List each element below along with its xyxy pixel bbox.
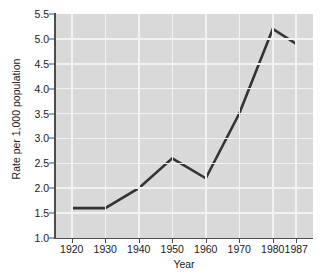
gridline-vertical [205, 14, 207, 238]
x-axis-tick-mark [72, 238, 73, 243]
y-axis-tick-mark [49, 63, 54, 64]
x-axis-tick-label: 1930 [94, 243, 117, 255]
y-axis-tick-label: 5.5 [23, 8, 49, 20]
x-axis-tick-label: 1987 [285, 243, 308, 255]
y-axis-tick-label: 2.5 [23, 157, 49, 169]
x-axis-tick-label: 1980 [261, 243, 284, 255]
y-axis-tick-label: 3.5 [23, 108, 49, 120]
y-axis-tick-label: 2.0 [23, 182, 49, 194]
gridline-horizontal [55, 138, 313, 140]
data-series-line [55, 14, 313, 238]
x-axis-tick-mark [172, 238, 173, 243]
y-axis-tick-mark [49, 88, 54, 89]
y-axis-tick-label: 4.0 [23, 83, 49, 95]
y-axis-tick-labels: 1.01.52.02.53.03.54.04.55.05.5 [22, 0, 49, 279]
line-chart-figure: Rate per 1,000 population 1.01.52.02.53.… [0, 0, 332, 279]
y-axis-tick-mark [49, 138, 54, 139]
gridline-vertical [138, 14, 140, 238]
gridline-vertical [71, 14, 73, 238]
y-axis-tick-label: 5.0 [23, 33, 49, 45]
gridline-horizontal [55, 63, 313, 65]
x-axis-tick-mark [239, 238, 240, 243]
y-axis-tick-mark [49, 14, 54, 15]
y-axis-tick-label: 4.5 [23, 58, 49, 70]
gridline-horizontal [55, 163, 313, 165]
y-axis-tick-mark [49, 38, 54, 39]
gridline-horizontal [55, 88, 313, 90]
gridline-horizontal [55, 187, 313, 189]
y-axis-line [54, 13, 56, 239]
y-axis-tick-label: 1.0 [23, 232, 49, 244]
x-axis-label: Year [55, 258, 313, 270]
gridline-horizontal [55, 212, 313, 214]
x-axis-line [54, 238, 313, 240]
gridline-vertical [172, 14, 174, 238]
x-axis-tick-label: 1970 [228, 243, 251, 255]
y-axis-tick-mark [49, 213, 54, 214]
y-axis-tick-mark [49, 188, 54, 189]
gridline-vertical [105, 14, 107, 238]
plot-area [55, 14, 313, 238]
y-axis-tick-mark [49, 113, 54, 114]
x-axis-tick-label: 1920 [60, 243, 83, 255]
gridline-horizontal [55, 38, 313, 40]
y-axis-tick-mark [49, 238, 54, 239]
x-axis-tick-mark [273, 238, 274, 243]
gridline-horizontal [55, 113, 313, 115]
gridline-vertical [239, 14, 241, 238]
x-axis-tick-label: 1960 [194, 243, 217, 255]
y-axis-tick-label: 1.5 [23, 207, 49, 219]
x-axis-tick-label: 1950 [161, 243, 184, 255]
x-axis-tick-mark [105, 238, 106, 243]
y-axis-tick-mark [49, 163, 54, 164]
x-axis-tick-label: 1940 [127, 243, 150, 255]
gridline-vertical [295, 14, 297, 238]
y-axis-tick-label: 3.0 [23, 132, 49, 144]
x-axis-tick-mark [139, 238, 140, 243]
x-axis-tick-mark [296, 238, 297, 243]
gridline-vertical [272, 14, 274, 238]
x-axis-tick-mark [206, 238, 207, 243]
